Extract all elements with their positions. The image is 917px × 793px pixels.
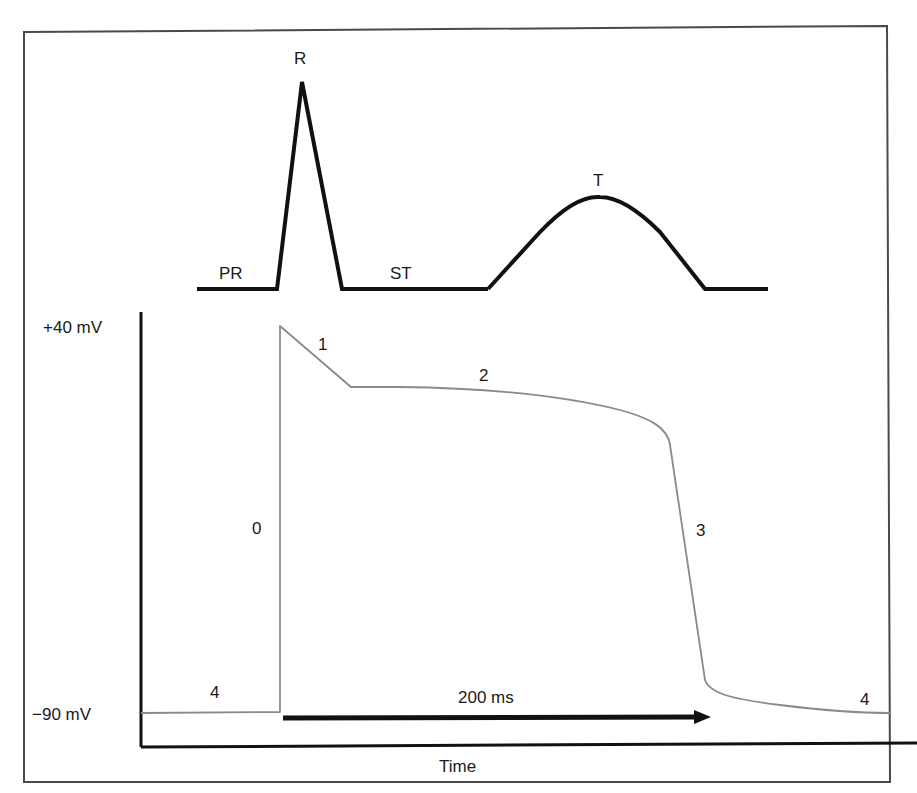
phase-label-3: 3 <box>696 521 705 540</box>
duration-label: 200 ms <box>458 688 514 707</box>
phase-labels: 0 1 2 3 4 4 <box>210 335 869 709</box>
y-axis-top-label: +40 mV <box>43 318 103 337</box>
ecg-action-potential-diagram: PR R ST T +40 mV −90 mV Time 0 1 2 3 4 4… <box>0 0 917 793</box>
phase-label-4-left: 4 <box>210 683 219 702</box>
phase-label-2: 2 <box>479 366 488 385</box>
arrow-head-icon <box>694 710 711 724</box>
x-axis-label: Time <box>439 757 476 776</box>
y-axis-bottom-label: −90 mV <box>32 705 92 724</box>
ecg-label-st: ST <box>390 264 412 283</box>
phase-label-1: 1 <box>318 335 327 354</box>
ecg-label-r: R <box>294 49 306 68</box>
figure-frame <box>24 26 890 782</box>
ecg-t-wave <box>488 197 768 289</box>
ecg-label-t: T <box>593 171 603 190</box>
phase-label-4-right: 4 <box>860 690 869 709</box>
ecg-label-pr: PR <box>219 264 243 283</box>
arrow-shaft <box>283 717 697 718</box>
duration-arrow: 200 ms <box>283 688 711 724</box>
x-axis <box>141 743 917 747</box>
ecg-trace-group: PR R ST T <box>197 49 768 289</box>
ecg-trace <box>197 82 488 289</box>
phase-label-0: 0 <box>252 519 261 538</box>
